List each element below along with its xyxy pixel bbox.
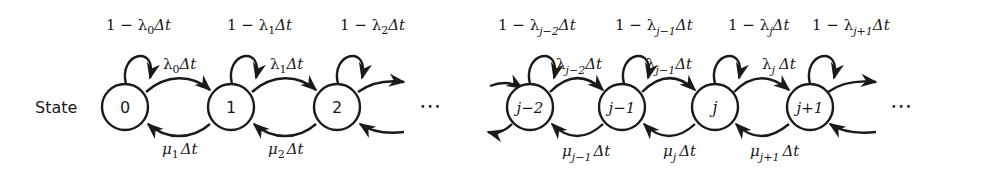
self-loop-label-2: 1 − λ2Δt — [340, 16, 406, 37]
backward-label-j: μjΔt — [663, 142, 697, 164]
backward-label-j-plus-1: μj+1Δt — [750, 142, 800, 164]
state-row-label: State — [35, 98, 77, 117]
state-node-j-minus-2: j−2 — [507, 84, 553, 130]
state-node-0: 0 — [102, 84, 148, 130]
ellipsis-right: ⋯ — [890, 93, 912, 118]
self-loop-label-j-minus-1: 1 − λj−1Δt — [615, 16, 694, 38]
state-node-2: 2 — [314, 84, 360, 130]
forward-label-j: λjΔt — [762, 55, 797, 77]
forward-label-j-minus-1: λj−1Δt — [646, 55, 693, 77]
self-loop-label-j: 1 − λjΔt — [728, 16, 790, 38]
state-node-j-minus-1: j−1 — [599, 84, 645, 130]
state-node-j-plus-1: j+1 — [787, 84, 833, 130]
svg-text:j−1: j−1 — [606, 99, 636, 117]
forward-label-0-1: λ0Δt — [163, 55, 197, 76]
self-loop-label-1: 1 − λ1Δt — [227, 16, 293, 37]
forward-edges — [146, 78, 876, 92]
state-diagram: State 0 1 — [0, 0, 981, 171]
forward-label-1-2: λ1Δt — [270, 55, 304, 76]
forward-edge-labels: λ0Δt λ1Δt λj−2Δt λj−1Δt λjΔt — [163, 55, 797, 77]
backward-label-1-0: μ1Δt — [162, 140, 199, 161]
self-loop-label-j-minus-2: 1 − λj−2Δt — [498, 16, 577, 38]
forward-label-j-minus-2: λj−2Δt — [556, 55, 603, 77]
backward-label-2-1: μ2Δt — [268, 140, 305, 161]
svg-text:1: 1 — [226, 98, 236, 117]
self-loop-label-0: 1 − λ0Δt — [106, 16, 172, 37]
svg-text:2: 2 — [332, 98, 342, 117]
backward-edge-labels: μ1Δt μ2Δt μj−1Δt μjΔt μj+1Δt — [162, 140, 800, 164]
self-loop-labels: 1 − λ0Δt 1 − λ1Δt 1 − λ2Δt 1 − λj−2Δt 1 … — [106, 16, 891, 38]
backward-label-j-minus-1: μj−1Δt — [562, 142, 611, 164]
state-node-1: 1 — [208, 84, 254, 130]
state-node-j: j — [692, 84, 738, 130]
ellipsis-middle: ⋯ — [419, 93, 441, 118]
svg-text:j+1: j+1 — [794, 99, 824, 117]
backward-edges — [148, 124, 876, 136]
svg-text:j−2: j−2 — [514, 99, 544, 117]
svg-text:0: 0 — [120, 98, 130, 117]
self-loop-label-j-plus-1: 1 − λj+1Δt — [812, 16, 891, 38]
self-loop-edges — [125, 56, 835, 84]
